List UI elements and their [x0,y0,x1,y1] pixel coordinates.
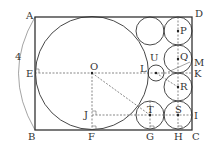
label-F: F [88,131,95,142]
dot-O [91,72,93,74]
label-Q: Q [180,51,188,62]
label-E: E [26,68,33,79]
rectangle-ABCD [35,17,192,130]
label-O: O [90,61,98,72]
label-L: L [140,63,147,74]
dot-P [177,30,179,32]
label-K: K [194,68,202,79]
label-H: H [174,131,183,142]
label-I: I [194,110,198,121]
dashed-OT [92,73,150,115]
dot-R [177,86,179,88]
dimension-label: 4 [15,51,21,62]
label-T: T [147,104,154,115]
small-circle-top-left [136,17,164,45]
label-J: J [83,109,88,120]
label-U: U [150,52,158,63]
label-M: M [194,57,204,68]
right-angle-J [92,111,96,115]
label-C: C [192,131,200,142]
label-P: P [180,25,187,36]
dot-Q [177,58,179,60]
label-S: S [175,104,182,115]
dot-U [155,72,157,74]
label-A: A [25,10,34,21]
label-G: G [146,131,154,142]
label-D: D [195,8,203,19]
geometry-diagram: 4 A D B C E O L U P Q M K R J T S I F G … [0,0,213,150]
label-B: B [28,131,35,142]
label-R: R [180,81,188,92]
